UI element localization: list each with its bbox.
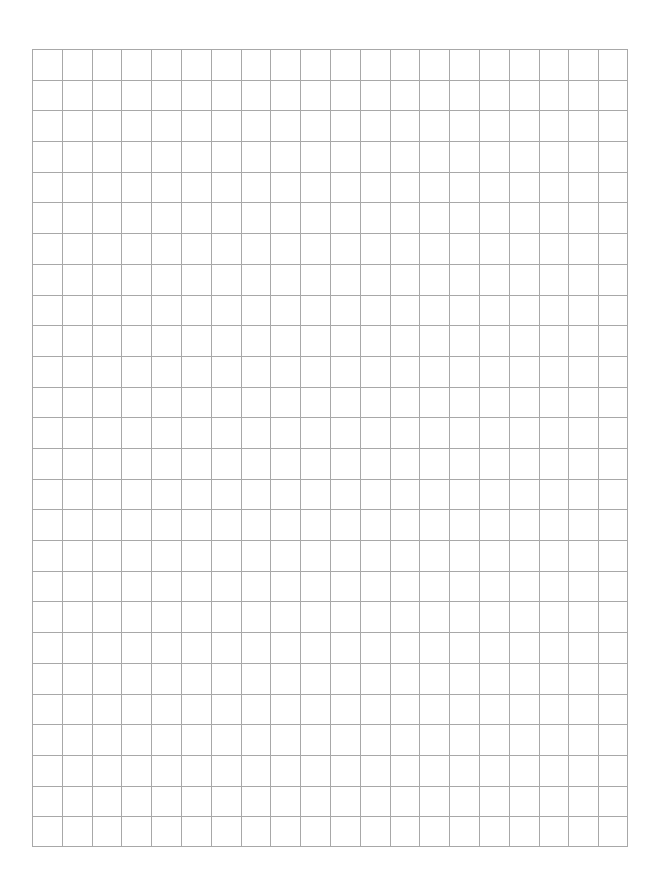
grid-area [32,49,628,847]
grid-lines [32,49,628,847]
grid-paper-page [0,0,656,891]
